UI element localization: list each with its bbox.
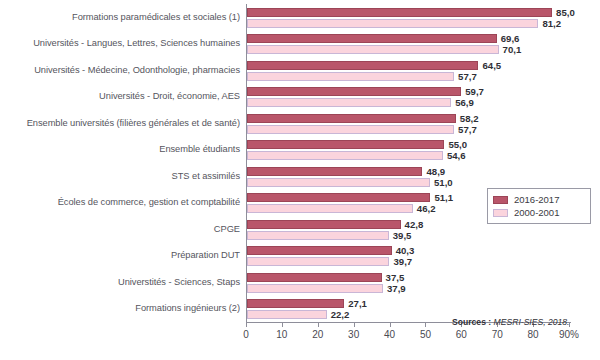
category-label-9: Préparation DUT	[0, 250, 240, 261]
value-label-2000-2001: 54,6	[447, 151, 466, 160]
value-label-2016-2017: 85,0	[556, 8, 575, 17]
value-label-2016-2017: 48,9	[426, 167, 445, 176]
bar-2016-2017	[247, 193, 430, 202]
bar-2016-2017	[247, 167, 422, 176]
value-label-2000-2001: 22,2	[331, 310, 350, 319]
category-label-7: Écoles de commerce, gestion et comptabil…	[0, 197, 240, 208]
x-tick-20	[318, 322, 319, 327]
value-label-2000-2001: 56,9	[455, 98, 474, 107]
bar-2000-2001	[247, 125, 454, 134]
bar-2000-2001	[247, 72, 454, 81]
value-label-2016-2017: 37,5	[386, 273, 405, 282]
x-tick-40	[390, 322, 391, 327]
x-tick-label-60: 60	[456, 329, 467, 340]
bar-2016-2017	[247, 140, 444, 149]
value-label-2000-2001: 51,0	[434, 178, 453, 187]
bar-2000-2001	[247, 45, 499, 54]
bar-2016-2017	[247, 87, 461, 96]
value-label-2000-2001: 70,1	[503, 45, 522, 54]
category-label-10: Universtités - Sciences, Staps	[0, 277, 240, 288]
bar-group: 69,670,1	[247, 34, 570, 57]
value-label-2016-2017: 64,5	[482, 61, 501, 70]
value-label-2016-2017: 59,7	[465, 87, 484, 96]
category-label-5: Ensemble étudiants	[0, 144, 240, 155]
value-label-2016-2017: 58,2	[460, 114, 479, 123]
x-tick-10	[282, 322, 283, 327]
bar-2000-2001	[247, 310, 327, 319]
value-label-2000-2001: 39,5	[393, 231, 412, 240]
bar-2000-2001	[247, 204, 413, 213]
x-tick-label-50: 50	[420, 329, 431, 340]
category-label-8: CPGE	[0, 224, 240, 235]
legend-item-recent: 2016-2017	[493, 193, 585, 206]
bar-2016-2017	[247, 220, 401, 229]
bar-group: 58,257,7	[247, 114, 570, 137]
x-tick-label-40: 40	[384, 329, 395, 340]
category-label-0: Formations paramédicales et sociales (1)	[0, 12, 240, 23]
bar-group: 37,537,9	[247, 273, 570, 296]
source-note: Sources : MESRI-SIES, 2018.	[452, 317, 570, 327]
plot-area: 0102030405060708090% 85,081,269,670,164,…	[246, 4, 570, 322]
x-tick-50	[425, 322, 426, 327]
source-label: Sources :	[452, 317, 491, 327]
bar-2000-2001	[247, 231, 389, 240]
bar-2016-2017	[247, 273, 382, 282]
value-label-2016-2017: 55,0	[448, 140, 467, 149]
bar-2016-2017	[247, 246, 392, 255]
x-tick-label-30: 30	[348, 329, 359, 340]
bar-group: 85,081,2	[247, 8, 570, 31]
bar-2016-2017	[247, 299, 344, 308]
bar-2000-2001	[247, 151, 443, 160]
category-label-6: STS et assimilés	[0, 171, 240, 182]
value-label-2016-2017: 51,1	[434, 193, 453, 202]
x-tick-label-80: 80	[528, 329, 539, 340]
chart-legend: 2016-2017 2000-2001	[487, 188, 591, 224]
value-label-2016-2017: 42,8	[405, 220, 424, 229]
horizontal-bar-chart: Formations paramédicales et sociales (1)…	[0, 0, 600, 360]
value-label-2000-2001: 39,7	[393, 257, 412, 266]
value-label-2016-2017: 40,3	[396, 246, 415, 255]
x-tick-label-10: 10	[276, 329, 287, 340]
x-tick-label-0: 0	[243, 329, 249, 340]
bar-2016-2017	[247, 114, 456, 123]
value-label-2000-2001: 57,7	[458, 125, 477, 134]
x-tick-0	[246, 322, 247, 327]
value-label-2000-2001: 46,2	[417, 204, 436, 213]
source-text: MESRI-SIES, 2018.	[494, 317, 570, 327]
value-label-2000-2001: 37,9	[387, 284, 406, 293]
bar-2000-2001	[247, 98, 451, 107]
legend-label-recent: 2016-2017	[514, 194, 559, 205]
category-label-2: Universités - Médecine, Odonthologie, ph…	[0, 65, 240, 76]
bar-2000-2001	[247, 284, 383, 293]
category-label-11: Formations ingénieurs (2)	[0, 303, 240, 314]
bar-2016-2017	[247, 61, 478, 70]
x-tick-label-90: 90%	[559, 329, 579, 340]
bar-2000-2001	[247, 19, 538, 28]
bar-group: 55,054,6	[247, 140, 570, 163]
x-tick-label-20: 20	[312, 329, 323, 340]
x-tick-30	[354, 322, 355, 327]
category-label-1: Universités - Langues, Lettres, Sciences…	[0, 38, 240, 49]
x-tick-label-70: 70	[492, 329, 503, 340]
legend-item-old: 2000-2001	[493, 206, 585, 219]
value-label-2000-2001: 81,2	[542, 19, 561, 28]
bar-group: 40,339,7	[247, 246, 570, 269]
value-label-2000-2001: 57,7	[458, 72, 477, 81]
value-label-2016-2017: 27,1	[348, 299, 367, 308]
category-label-3: Universités - Droit, économie, AES	[0, 91, 240, 102]
bar-group: 48,951,0	[247, 167, 570, 190]
value-label-2016-2017: 69,6	[501, 34, 520, 43]
bar-2016-2017	[247, 8, 552, 17]
legend-label-old: 2000-2001	[514, 207, 559, 218]
legend-swatch-old-icon	[493, 209, 508, 217]
category-label-4: Ensemble universités (filières générales…	[0, 118, 240, 129]
category-axis-labels: Formations paramédicales et sociales (1)…	[0, 0, 244, 322]
legend-swatch-recent-icon	[493, 196, 508, 204]
bar-2000-2001	[247, 257, 389, 266]
bar-2000-2001	[247, 178, 430, 187]
bar-group: 59,756,9	[247, 87, 570, 110]
bar-2016-2017	[247, 34, 497, 43]
bar-group: 64,557,7	[247, 61, 570, 84]
